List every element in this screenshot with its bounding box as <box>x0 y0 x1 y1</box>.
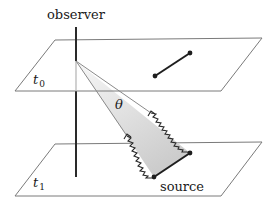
source-endpoint-b <box>188 151 193 156</box>
object-segment-t0 <box>155 53 190 76</box>
object-segment-t0-endpoint-b <box>188 51 193 56</box>
angle-theta-label: θ <box>115 98 123 111</box>
source-label: source <box>160 180 204 193</box>
plane-t0-label-subscript: 0 <box>39 79 45 89</box>
object-segment-t0-endpoint-a <box>153 74 158 79</box>
light-cone-diagram <box>0 0 274 204</box>
observer-label: observer <box>47 8 105 21</box>
plane-t0-label: t0 <box>33 73 45 86</box>
plane-t1-label-main: t <box>33 175 38 190</box>
plane-t1-label: t1 <box>33 176 45 189</box>
past-light-cone-region <box>76 61 190 177</box>
plane-t1-label-subscript: 1 <box>39 182 45 192</box>
source-endpoint-a <box>152 175 157 180</box>
plane-t0 <box>15 38 262 91</box>
plane-t0-label-main: t <box>33 72 38 87</box>
